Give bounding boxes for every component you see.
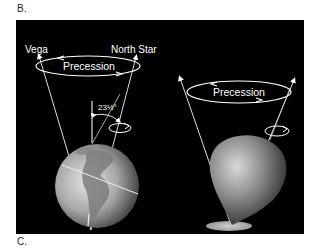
tilt-angle-label: 23½° [98,103,117,112]
earth-icon [55,144,139,228]
top-base-shadow [206,221,252,231]
precession-label-right: Precession [213,86,265,98]
figure-label-b: B. [17,3,26,14]
precession-diagram: Precession Vega North Star 23½° Pre [16,20,304,234]
figure-label-c: C. [17,236,27,247]
spinning-top-icon [210,135,287,225]
earth-diagram: Precession Vega North Star 23½° [25,44,157,230]
vega-label: Vega [25,44,48,55]
precession-figure: Precession Vega North Star 23½° Pre [16,20,304,234]
spinning-top-diagram: Precession [180,78,294,231]
north-star-label: North Star [111,44,157,55]
precession-label-left: Precession [63,60,115,72]
